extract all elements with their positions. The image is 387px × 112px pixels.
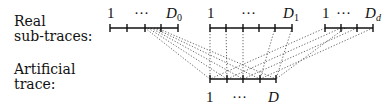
trace-diagram: 1 ··· D 0 1 ··· D 1 1 ··· D d 1 ··· D [0,0,387,112]
traced-dots: ··· [336,5,351,21]
artificial-end-label: D [267,89,279,105]
artificial-start-label: 1 [206,89,214,105]
trace1-end-label: D [282,5,294,21]
trace0-start-label: 1 [107,5,115,21]
real-trace-1 [210,24,292,32]
trace0-dots: ··· [134,5,149,21]
trace0-end-sub: 0 [177,12,182,23]
real-trace-d [325,24,373,32]
trace0-end-label: D [165,5,177,21]
trace1-dots: ··· [241,5,256,21]
connector-lines [145,28,373,79]
artificial-dots: ··· [232,89,247,105]
traced-end-label: D [364,5,376,21]
real-trace-0 [110,24,178,32]
traced-end-sub: d [376,12,382,23]
traced-start-label: 1 [322,5,330,21]
trace1-end-sub: 1 [294,12,299,23]
trace1-start-label: 1 [207,5,215,21]
